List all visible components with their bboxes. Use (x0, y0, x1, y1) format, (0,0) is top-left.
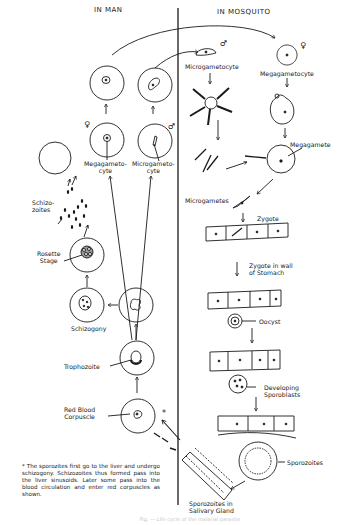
label-sporozoites-salivary: Sporozoites in Salivary Gland (189, 500, 234, 514)
mosquito-megagametocyte (277, 45, 297, 65)
figure-caption: Fig. — Life cycle of the malarial parasi… (70, 516, 310, 522)
man-megagametocyte-cell (90, 123, 124, 160)
label-microgametocyte-mosquito: Microgametocyte (185, 63, 239, 70)
rosette-stage-cell (64, 238, 104, 272)
male-symbol: ♂ (168, 123, 175, 131)
label-megagamete: Megagamete (290, 141, 331, 148)
female-symbol: ♀ (300, 42, 306, 50)
sporozoite-oocyst (239, 442, 285, 480)
trophozoite-cell (110, 341, 154, 375)
label-developing-sporoblasts: Developing Sporoblasts (264, 384, 300, 398)
arrow-to-megagametocyte (112, 26, 275, 55)
asterisk-marker: * (162, 410, 166, 418)
schizogony-cell (70, 288, 104, 322)
megagamete-cell (267, 145, 302, 173)
label-megagametocyte-man: Megagameto- cyte (84, 160, 127, 174)
label-zygote-in-wall: Zygote in wall of Stomach (249, 262, 293, 276)
stomach-wall-1 (206, 223, 288, 241)
female-symbol: ♀ (84, 121, 90, 129)
developing-sporoblasts (229, 375, 256, 393)
mosquito-microgametocyte (196, 49, 216, 56)
label-rosette-stage: Rosette Stage (37, 250, 61, 264)
red-blood-corpuscle-cell (108, 399, 155, 433)
exflagellating-microgametocyte (190, 88, 232, 125)
man-microgametocyte-cell (138, 124, 172, 161)
salivary-gland (182, 448, 233, 500)
label-microgametocyte-man: Microgameto- cyte (132, 160, 175, 174)
microgametes (195, 149, 266, 172)
arrow-to-megagametocyte-man (110, 176, 132, 340)
label-megagametocyte-mosquito: Megagametocyte (260, 70, 314, 77)
man-megagametocyte-top (90, 66, 124, 100)
arrow-to-microgametocyte-man (136, 176, 151, 340)
label-zygote: Zygote (257, 215, 279, 222)
sporozoites-in-blood (154, 433, 176, 450)
label-oocyst: Oocyst (259, 318, 280, 325)
stomach-wall-4 (218, 416, 296, 438)
empty-red-cell (39, 142, 71, 174)
header-in-man: IN MAN (94, 6, 123, 14)
male-symbol: ♂ (220, 40, 227, 48)
label-red-blood-corpuscle: Red Blood Corpuscle (64, 406, 95, 420)
schizozoites-cluster (60, 187, 87, 229)
label-sporozoites: Sporozoites (287, 459, 323, 466)
megagamete-pear (270, 94, 294, 124)
stomach-wall-2 (208, 290, 281, 309)
man-microgametocyte-top (138, 68, 172, 102)
zygote-cell (233, 196, 250, 208)
label-trophozoite: Trophozoite (64, 363, 100, 370)
oocyst (228, 314, 256, 328)
header-in-mosquito: IN MOSQUITO (217, 8, 271, 16)
label-microgametes: Microgametes (185, 197, 229, 204)
label-schizogony: Schizogony (71, 325, 106, 332)
amoeboid-trophozoite-cell (119, 288, 153, 322)
footnote-text: * The sporozites first go to the liver a… (22, 463, 160, 498)
stomach-wall-3 (210, 350, 280, 371)
label-schizozoites: Schizo- zoites (32, 199, 54, 213)
